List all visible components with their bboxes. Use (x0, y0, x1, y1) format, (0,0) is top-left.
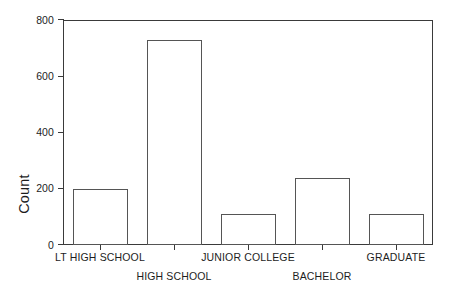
bar (295, 178, 350, 246)
x-tick (396, 245, 397, 250)
y-tick-label-wrap: 600 (8, 71, 54, 82)
x-tick (100, 245, 101, 250)
y-tick-label: 200 (10, 183, 54, 194)
bar (221, 214, 276, 245)
x-tick-label: BACHELOR (262, 270, 382, 282)
x-tick-label: HIGH SCHOOL (114, 270, 234, 282)
x-tick (248, 245, 249, 250)
x-tick (322, 245, 323, 250)
x-tick-label: LT HIGH SCHOOL (40, 251, 160, 263)
bar (369, 214, 424, 245)
y-tick-label: 600 (10, 71, 54, 82)
x-tick-label: JUNIOR COLLEGE (188, 251, 308, 263)
bar (147, 40, 202, 245)
x-tick-label: GRADUATE (336, 251, 456, 263)
y-tick-label-wrap: 200 (8, 183, 54, 194)
y-tick-label: 0 (10, 240, 54, 251)
y-tick-label: 400 (10, 127, 54, 138)
bar (73, 189, 128, 245)
bar-chart: Count 0200400600800 LT HIGH SCHOOLHIGH S… (0, 0, 456, 299)
y-tick-label-wrap: 0 (8, 240, 54, 251)
y-tick-label-wrap: 400 (8, 127, 54, 138)
x-tick (174, 245, 175, 250)
y-tick-label: 800 (10, 15, 54, 26)
y-tick-label-wrap: 800 (8, 15, 54, 26)
bars-group (63, 20, 433, 245)
